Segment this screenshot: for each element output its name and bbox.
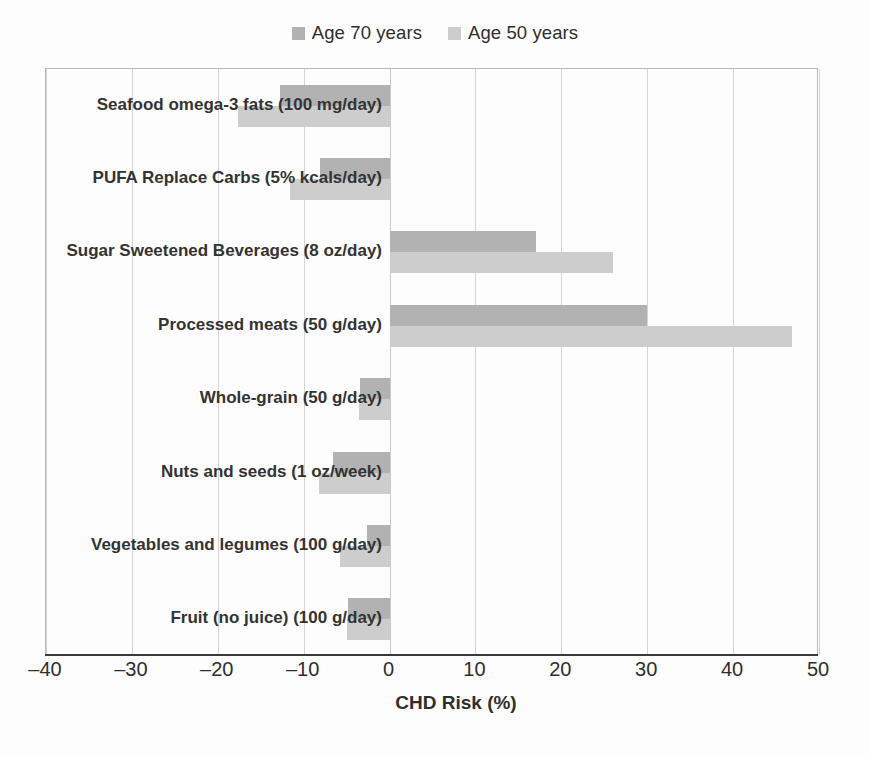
bar-group (46, 452, 817, 494)
bar-age-50[interactable] (340, 546, 390, 567)
x-tick-label--40: –40 (28, 658, 61, 681)
bar-group (46, 231, 817, 273)
x-tick-label-40: 40 (721, 658, 743, 681)
x-axis-title: CHD Risk (%) (0, 692, 870, 714)
x-axis-tick-labels: –40–30–20–1001020304050 (45, 658, 818, 688)
x-tick-label-30: 30 (635, 658, 657, 681)
x-tick-label-0: 0 (383, 658, 394, 681)
bar-age-50[interactable] (390, 326, 792, 347)
bar-group (46, 378, 817, 420)
x-tick-label--20: –20 (200, 658, 233, 681)
legend-entry-1[interactable]: Age 70 years (292, 22, 422, 44)
x-axis-line (45, 654, 818, 656)
bar-age-50[interactable] (290, 179, 390, 200)
bar-series-container (46, 69, 817, 655)
x-tick-label-10: 10 (463, 658, 485, 681)
legend-swatch-age-70 (292, 27, 305, 40)
bar-group (46, 525, 817, 567)
bar-age-70[interactable] (360, 378, 389, 399)
bar-age-70[interactable] (348, 598, 389, 619)
legend-label-2: Age 50 years (468, 22, 578, 44)
chart-figure: Age 70 yearsAge 50 years Seafood omega-3… (0, 0, 870, 758)
bar-age-70[interactable] (320, 158, 390, 179)
x-tick-label--10: –10 (286, 658, 319, 681)
bar-age-70[interactable] (390, 305, 648, 326)
bar-group (46, 85, 817, 127)
bar-age-70[interactable] (280, 85, 390, 106)
legend-swatch-age-50 (448, 27, 461, 40)
bar-age-50[interactable] (238, 106, 390, 127)
x-axis-title-text: CHD Risk (%) (395, 692, 516, 714)
bar-age-50[interactable] (359, 399, 390, 420)
bar-age-50[interactable] (347, 619, 389, 640)
bar-group (46, 158, 817, 200)
legend-entry-2[interactable]: Age 50 years (448, 22, 578, 44)
bar-age-70[interactable] (390, 231, 536, 252)
bar-age-50[interactable] (390, 252, 613, 273)
bar-group (46, 305, 817, 347)
plot-area (45, 68, 818, 655)
x-tick-label--30: –30 (114, 658, 147, 681)
bar-age-50[interactable] (319, 473, 389, 494)
legend-label-1: Age 70 years (312, 22, 422, 44)
gridline-50 (819, 69, 820, 655)
x-tick-label-20: 20 (549, 658, 571, 681)
bar-age-70[interactable] (367, 525, 389, 546)
chart-legend: Age 70 yearsAge 50 years (0, 22, 870, 44)
bar-age-70[interactable] (333, 452, 390, 473)
x-tick-label-50: 50 (807, 658, 829, 681)
bar-group (46, 598, 817, 640)
